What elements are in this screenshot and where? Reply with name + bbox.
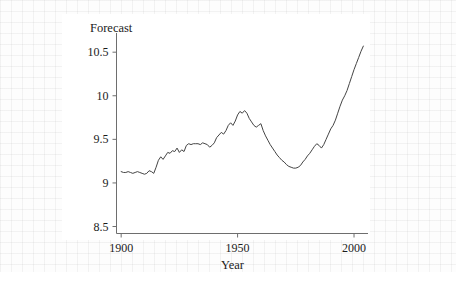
y-axis-tick-marks bbox=[113, 52, 117, 226]
x-axis-tick-marks bbox=[121, 234, 354, 238]
forecast-line-series bbox=[121, 46, 363, 174]
x-tick-label: 2000 bbox=[324, 242, 384, 254]
x-tick-label: 1950 bbox=[208, 242, 268, 254]
figure-page: Forecast Year 8.599.51010.5 190019502000 bbox=[0, 0, 471, 286]
y-tick-label: 8.5 bbox=[67, 221, 109, 233]
y-tick-label: 9 bbox=[67, 177, 109, 189]
x-axis-title: Year bbox=[221, 259, 244, 272]
y-tick-label: 10.5 bbox=[67, 46, 109, 58]
y-tick-label: 9.5 bbox=[67, 133, 109, 145]
x-tick-label: 1900 bbox=[91, 242, 151, 254]
y-axis-title: Forecast bbox=[90, 22, 132, 35]
y-tick-label: 10 bbox=[67, 90, 109, 102]
